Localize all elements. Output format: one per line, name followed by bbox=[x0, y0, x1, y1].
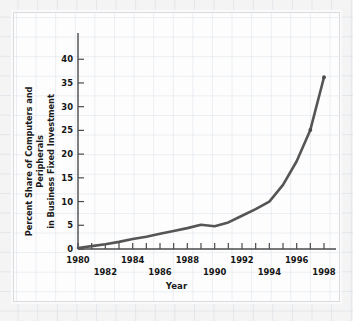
y-tick-label: 35 bbox=[61, 78, 73, 88]
chart-screenshot: Percent Share of Computers and Periphera… bbox=[0, 0, 353, 321]
x-tick-label: 1992 bbox=[230, 255, 253, 265]
x-tick-label: 1998 bbox=[312, 267, 335, 277]
y-tick-label: 10 bbox=[61, 197, 73, 207]
y-tick-label: 15 bbox=[61, 173, 73, 183]
y-tick-label: 30 bbox=[61, 102, 73, 112]
data-series-line bbox=[78, 77, 324, 248]
x-tick-label: 1988 bbox=[176, 255, 199, 265]
y-axis-tick-labels: 0510152025303540 bbox=[61, 54, 73, 254]
y-tick-label: 40 bbox=[61, 54, 73, 64]
x-tick-label: 1982 bbox=[94, 267, 117, 277]
x-axis-tick-labels-lower: 19821986199019941998 bbox=[94, 267, 336, 277]
x-tick-label: 1990 bbox=[203, 267, 226, 277]
x-tick-label: 1996 bbox=[285, 255, 308, 265]
y-tick-label: 25 bbox=[61, 125, 73, 135]
data-point-marker bbox=[322, 75, 326, 79]
x-tick-label: 1980 bbox=[66, 255, 89, 265]
x-tick-label: 1986 bbox=[148, 267, 171, 277]
chart-card: Percent Share of Computers and Periphera… bbox=[13, 12, 340, 302]
y-axis-ticks bbox=[78, 59, 84, 249]
plot-area: 0510152025303540 19801984198819921996 19… bbox=[14, 13, 339, 301]
x-tick-label: 1984 bbox=[121, 255, 144, 265]
line-chart-svg: 0510152025303540 19801984198819921996 19… bbox=[14, 13, 339, 301]
x-tick-label: 1994 bbox=[258, 267, 281, 277]
data-point-marker bbox=[308, 128, 312, 132]
y-tick-label: 0 bbox=[67, 244, 73, 254]
x-axis-tick-labels-upper: 19801984198819921996 bbox=[66, 255, 308, 265]
y-tick-label: 5 bbox=[67, 220, 73, 230]
y-tick-label: 20 bbox=[61, 149, 73, 159]
